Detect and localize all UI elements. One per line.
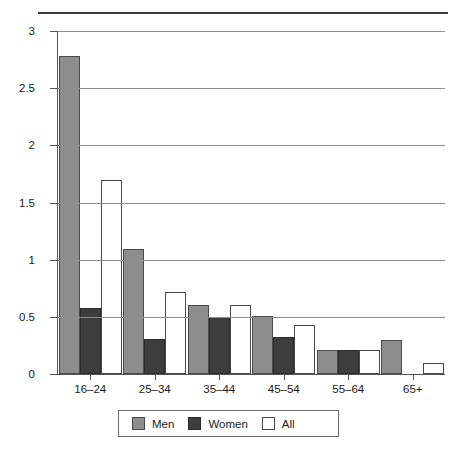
bar-all-16-24 xyxy=(101,180,122,374)
gridline xyxy=(58,88,445,89)
x-axis-tick xyxy=(155,375,156,380)
y-axis-tick-label: 2.5 xyxy=(0,82,46,94)
gridline xyxy=(58,317,445,318)
legend-item-men: Men xyxy=(132,417,174,430)
legend-item-women: Women xyxy=(188,417,247,430)
y-axis-tick-label: 1 xyxy=(0,254,46,266)
y-axis-tick xyxy=(50,31,57,32)
legend-swatch-men xyxy=(132,417,145,430)
legend-label-women: Women xyxy=(208,418,247,430)
bar-men-55-64 xyxy=(317,350,338,374)
y-axis-tick xyxy=(50,203,57,204)
bar-men-16-24 xyxy=(59,56,80,374)
plot-area xyxy=(58,31,445,374)
gridline xyxy=(58,260,445,261)
bar-women-55-64 xyxy=(338,350,359,374)
gridline xyxy=(58,203,445,204)
bar-all-55-64 xyxy=(359,350,380,374)
gridline xyxy=(58,31,445,32)
legend-swatch-all xyxy=(262,417,275,430)
y-axis-tick-label: 2 xyxy=(0,139,46,151)
bar-men-25-34 xyxy=(123,249,144,374)
chart-legend: MenWomenAll xyxy=(118,410,339,437)
x-axis-tick xyxy=(284,375,285,380)
bar-women-25-34 xyxy=(144,339,165,374)
y-axis-tick-label: 0 xyxy=(0,368,46,380)
x-axis-line xyxy=(58,374,445,375)
y-axis-tick-labels: 00.511.522.53 xyxy=(0,0,46,457)
bar-all-45-54 xyxy=(294,325,315,374)
x-axis-tick xyxy=(348,375,349,380)
chart-figure: per cent 00.511.522.53 MenWomenAll 16–24… xyxy=(0,0,461,457)
legend-label-all: All xyxy=(282,418,295,430)
y-axis-tick xyxy=(50,374,57,375)
y-axis-tick xyxy=(50,260,57,261)
bar-women-45-54 xyxy=(273,337,294,374)
y-axis-tick-label: 1.5 xyxy=(0,197,46,209)
legend-item-all: All xyxy=(262,417,295,430)
bar-men-45-54 xyxy=(252,316,273,374)
y-axis-tick xyxy=(50,317,57,318)
bar-women-35-44 xyxy=(209,317,230,374)
legend-label-men: Men xyxy=(152,418,174,430)
x-axis-tick xyxy=(219,375,220,380)
bar-all-25-34 xyxy=(165,292,186,374)
bar-men-65+ xyxy=(381,340,402,374)
page-top-rule xyxy=(38,12,448,14)
x-axis-tick xyxy=(413,375,414,380)
bar-all-65+ xyxy=(423,363,444,374)
bar-men-35-44 xyxy=(188,305,209,374)
legend-swatch-women xyxy=(188,417,201,430)
bar-all-35-44 xyxy=(230,305,251,374)
y-axis-tick-label: 3 xyxy=(0,25,46,37)
y-axis-tick xyxy=(50,145,57,146)
y-axis-tick xyxy=(50,88,57,89)
x-axis-tick xyxy=(90,375,91,380)
x-axis-label-65+: 65+ xyxy=(373,383,453,396)
gridline xyxy=(58,145,445,146)
y-axis-tick-label: 0.5 xyxy=(0,311,46,323)
